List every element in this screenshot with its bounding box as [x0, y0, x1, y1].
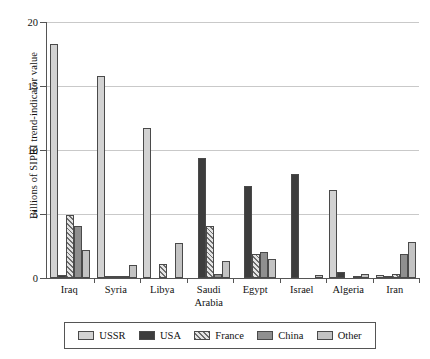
x-axis-label: Israel — [290, 284, 313, 297]
bar-china — [400, 254, 408, 278]
legend-label: USA — [160, 330, 181, 341]
bar-other — [222, 261, 230, 278]
x-axis-label: Libya — [150, 284, 175, 297]
y-axis-tick-label: 5 — [33, 209, 38, 220]
bar-ussr — [143, 128, 151, 278]
bar-group — [47, 22, 94, 278]
bar-group — [233, 22, 280, 278]
legend-item[interactable]: Other — [317, 330, 362, 341]
legend-item[interactable]: USSR — [78, 330, 125, 341]
bar-other — [315, 275, 323, 278]
bar-france — [66, 215, 74, 278]
bar-usa — [384, 276, 392, 278]
x-axis-labels: IraqSyriaLibyaSaudi ArabiaEgyptIsraelAlg… — [46, 284, 418, 318]
x-axis-label: Algeria — [333, 284, 365, 297]
x-axis-tick — [419, 278, 420, 283]
legend-swatch-china — [257, 331, 273, 340]
bar-france — [206, 226, 214, 278]
y-axis-tick — [40, 150, 47, 151]
x-axis-label: Iran — [386, 284, 403, 297]
bar-usa — [244, 186, 252, 278]
bar-other — [408, 242, 416, 278]
plot-area: 05101520 — [46, 22, 419, 279]
bar-group — [140, 22, 187, 278]
legend-label: USSR — [99, 330, 125, 341]
legend-label: Other — [338, 330, 362, 341]
bar-group — [373, 22, 420, 278]
bar-usa — [198, 158, 206, 278]
legend-label: France — [215, 330, 244, 341]
bar-group — [280, 22, 327, 278]
y-axis-tick — [40, 278, 47, 279]
chart-legend: USSRUSAFranceChinaOther — [64, 322, 376, 349]
legend-item[interactable]: France — [194, 330, 244, 341]
bar-other — [361, 274, 369, 278]
legend-item[interactable]: China — [257, 330, 303, 341]
legend-label: China — [278, 330, 303, 341]
bar-china — [353, 276, 361, 278]
x-axis-label: Syria — [105, 284, 127, 297]
bar-france — [252, 254, 260, 278]
x-axis-tick — [373, 278, 374, 283]
bar-china — [74, 226, 82, 278]
bar-usa — [337, 272, 345, 278]
bar-china — [214, 274, 222, 278]
bars-layer — [47, 22, 419, 278]
x-axis-tick — [326, 278, 327, 283]
bar-ussr — [50, 44, 58, 278]
bar-group — [326, 22, 373, 278]
y-axis-tick — [40, 86, 47, 87]
y-axis-tick-label: 10 — [28, 145, 39, 156]
x-axis-tick — [140, 278, 141, 283]
x-axis-tick — [233, 278, 234, 283]
bar-ussr — [97, 76, 105, 278]
bar-chart-figure: Billions of SIPRI trend-indicator value … — [0, 0, 430, 359]
bar-group — [187, 22, 234, 278]
y-axis-tick — [40, 22, 47, 23]
x-axis-label: Egypt — [243, 284, 268, 297]
bar-ussr — [376, 275, 384, 278]
legend-item[interactable]: USA — [139, 330, 181, 341]
bar-usa — [105, 276, 113, 278]
y-axis-tick-label: 0 — [33, 273, 38, 284]
bar-france — [159, 264, 167, 278]
x-axis-label: Iraq — [61, 284, 78, 297]
bar-china — [260, 252, 268, 278]
bar-ussr — [329, 190, 337, 278]
bar-other — [268, 259, 276, 278]
legend-swatch-other — [317, 331, 333, 340]
bar-china — [121, 276, 129, 278]
bar-other — [82, 250, 90, 278]
bar-other — [175, 243, 183, 278]
x-axis-tick — [187, 278, 188, 283]
bar-usa — [58, 275, 66, 278]
bar-group — [94, 22, 141, 278]
y-axis-tick — [40, 214, 47, 215]
x-axis-tick — [280, 278, 281, 283]
legend-swatch-ussr — [78, 331, 94, 340]
x-axis-label: Saudi Arabia — [194, 284, 223, 309]
legend-swatch-usa — [139, 331, 155, 340]
bar-france — [113, 276, 121, 278]
y-axis-tick-label: 15 — [28, 81, 39, 92]
bar-france — [392, 274, 400, 278]
bar-other — [129, 265, 137, 278]
x-axis-tick — [94, 278, 95, 283]
bar-usa — [291, 174, 299, 278]
y-axis-tick-label: 20 — [28, 17, 39, 28]
legend-swatch-france — [194, 331, 210, 340]
